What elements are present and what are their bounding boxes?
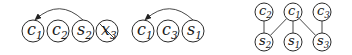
graph-node-c1: c1 — [284, 3, 302, 21]
sequence-diagrams: c1c2s2x3c1c3s1 — [22, 9, 204, 42]
edge-c1-s2 — [270, 18, 286, 35]
graph-node-s3: s3 — [313, 33, 331, 51]
seq-node-x3: x3 — [96, 20, 118, 42]
graph-node-c3: c3 — [313, 3, 331, 21]
dependency-arrow — [146, 9, 193, 20]
seq-node-s1: s1 — [182, 20, 204, 42]
seq-node-s2: s2 — [72, 20, 94, 42]
seq-node-c2: c2 — [47, 20, 69, 42]
seq-node-c1: c1 — [22, 20, 44, 42]
graph-node-c2: c2 — [255, 3, 273, 21]
seq-node-c1: c1 — [132, 20, 154, 42]
graph-node-s1: s1 — [284, 33, 302, 51]
sequence-1: c1c2s2x3 — [22, 9, 118, 42]
dependency-arrow — [36, 9, 83, 20]
seq-node-c3: c3 — [157, 20, 179, 42]
diagram-canvas: c1c2s2x3c1c3s1 c2c1c3s2s1s3 — [0, 0, 352, 55]
graph-node-s2: s2 — [255, 33, 273, 51]
edge-c1-s3 — [299, 18, 315, 35]
bipartite-graph: c2c1c3s2s1s3 — [255, 3, 331, 51]
sequence-2: c1c3s1 — [132, 9, 204, 42]
